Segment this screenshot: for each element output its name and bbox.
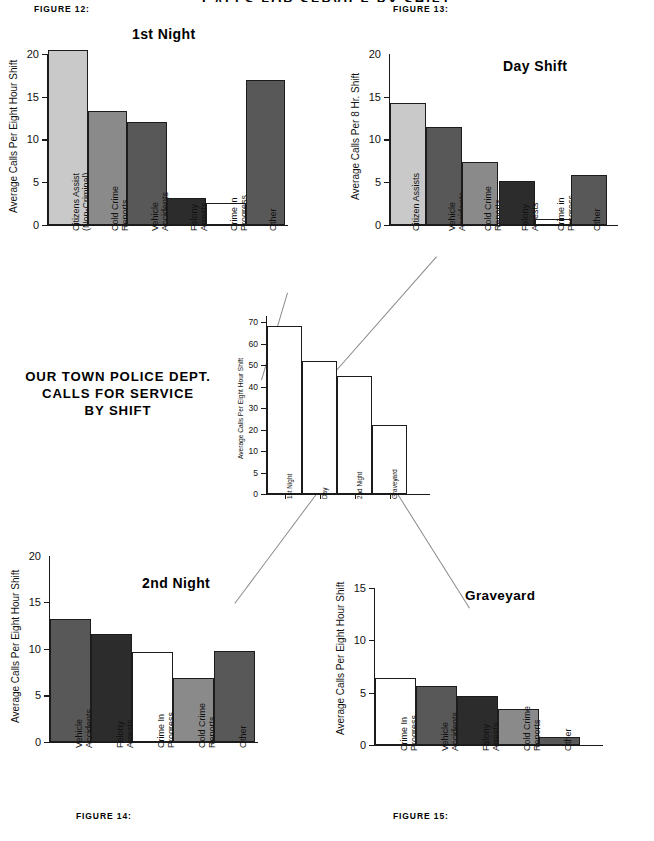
y-tick-label: 0: [6, 219, 39, 231]
x-axis-line: [389, 225, 618, 226]
y-tick-mark: [42, 97, 47, 98]
y-tick-mark: [384, 225, 389, 226]
bar: [539, 737, 580, 745]
bar: [337, 376, 372, 494]
bar: [267, 326, 302, 494]
y-tick-label: 20: [8, 550, 41, 562]
y-tick-label: 0: [348, 219, 381, 231]
bar: [302, 361, 337, 494]
main-title-line-2: CALLS FOR SERVICE: [18, 385, 218, 402]
y-tick-mark: [261, 430, 266, 431]
chart-figure-14: 2nd Night 05101520Average Calls Per Eigh…: [0, 540, 330, 841]
main-title-block: OUR TOWN POLICE DEPT. CALLS FOR SERVICE …: [18, 368, 218, 419]
y-tick-mark: [44, 602, 49, 603]
y-tick-label: 0: [333, 739, 366, 751]
chart-figure-12: 1st Night 05101520Average Calls Per Eigh…: [0, 0, 330, 300]
main-title-line-1: OUR TOWN POLICE DEPT.: [18, 368, 218, 385]
chart-figure-15: Graveyard 051015Average Calls Per Eight …: [330, 540, 654, 841]
y-tick-mark: [261, 322, 266, 323]
y-tick-mark: [261, 451, 266, 452]
y-tick-mark: [42, 182, 47, 183]
y-tick-mark: [42, 225, 47, 226]
chart-title-day-shift: Day Shift: [503, 58, 567, 74]
y-tick-mark: [42, 54, 47, 55]
y-axis-title: Average Calls Per Eight Hour Shift: [237, 357, 244, 458]
y-tick-mark: [369, 588, 374, 589]
y-axis-title: Average Calls Per 8 Hr. Shift: [350, 72, 361, 199]
y-axis-title: Average Calls Per Eight Hour Shift: [8, 59, 19, 212]
y-tick-mark: [261, 344, 266, 345]
y-tick-mark: [261, 387, 266, 388]
figure-sheet: CALLS FOR SERVICE BY SHIFT FIGURE 12: FI…: [0, 0, 654, 841]
y-tick-label: 20: [6, 48, 39, 60]
chart-title-2nd-night: 2nd Night: [142, 575, 210, 591]
y-tick-mark: [261, 365, 266, 366]
y-tick-label: 5: [225, 468, 258, 478]
y-tick-label: 20: [348, 48, 381, 60]
y-tick-mark: [384, 139, 389, 140]
y-tick-mark: [44, 695, 49, 696]
x-category-label: Day: [322, 488, 329, 499]
y-tick-mark: [369, 693, 374, 694]
bar: [372, 425, 407, 494]
x-category-label: FelonyArrests: [521, 202, 540, 231]
x-category-label: Other: [564, 728, 574, 751]
y-tick-mark: [261, 473, 266, 474]
bar: [214, 651, 255, 742]
main-title-line-3: BY SHIFT: [18, 402, 218, 419]
x-category-label: Citizen Assists: [412, 173, 422, 231]
x-category-label: Other: [269, 208, 279, 231]
y-tick-label: 0: [225, 489, 258, 499]
y-tick-mark: [384, 182, 389, 183]
chart-center-by-shift: 0510203040506070Average Calls Per Eight …: [225, 310, 425, 530]
y-tick-mark: [369, 640, 374, 641]
y-tick-mark: [42, 139, 47, 140]
bar: [246, 80, 286, 225]
chart-title-1st-night: 1st Night: [132, 26, 196, 42]
y-tick-mark: [44, 649, 49, 650]
x-category-label: Graveyard: [392, 469, 399, 499]
chart-title-graveyard: Graveyard: [465, 588, 535, 603]
y-tick-mark: [261, 408, 266, 409]
x-category-label: 2nd Night: [357, 472, 364, 499]
y-axis-title: Average Calls Per Eight Hour Shift: [335, 582, 346, 735]
y-axis-title: Average Calls Per Eight Hour Shift: [10, 570, 21, 723]
x-category-label: Other: [239, 725, 249, 748]
x-category-label: Other: [593, 208, 603, 231]
y-tick-mark: [44, 742, 49, 743]
y-tick-mark: [384, 97, 389, 98]
y-tick-label: 60: [225, 339, 258, 349]
y-tick-label: 70: [225, 317, 258, 327]
y-tick-mark: [261, 494, 266, 495]
chart-figure-13: Day Shift 05101520Average Calls Per 8 Hr…: [340, 0, 654, 300]
y-tick-mark: [369, 745, 374, 746]
y-tick-label: 0: [8, 736, 41, 748]
x-category-label: 1st Night: [287, 474, 294, 499]
